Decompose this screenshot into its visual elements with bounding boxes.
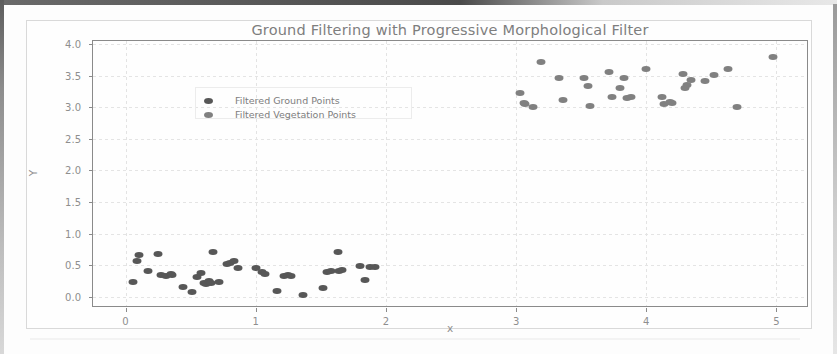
gridline-horizontal (93, 234, 807, 235)
legend-marker-icon (204, 98, 213, 104)
data-point (133, 258, 142, 264)
data-point (529, 104, 538, 110)
plot-area: 0123450.00.51.01.52.02.53.03.54.0 Filter… (92, 40, 808, 307)
data-point (233, 265, 242, 271)
data-point (536, 59, 545, 65)
y-tick (89, 297, 93, 298)
data-point (768, 54, 777, 60)
data-point (515, 90, 524, 96)
y-tick-label: 1.5 (65, 196, 81, 207)
data-point (616, 85, 625, 91)
data-point (733, 104, 742, 110)
x-tick-label: 5 (773, 316, 779, 327)
data-point (555, 75, 564, 81)
data-point (371, 264, 380, 270)
data-point (129, 279, 138, 285)
x-axis-label: x (92, 322, 808, 334)
chart-legend[interactable]: Filtered Ground PointsFiltered Vegetatio… (195, 87, 412, 119)
legend-label: Filtered Ground Points (235, 95, 340, 106)
chart-title: Ground Filtering with Progressive Morpho… (92, 22, 808, 38)
data-point (229, 258, 238, 264)
legend-label: Filtered Vegetation Points (235, 109, 356, 120)
gridline-vertical (646, 41, 647, 306)
y-tick (89, 170, 93, 171)
data-point (709, 72, 718, 78)
data-point (333, 249, 342, 255)
y-tick (89, 234, 93, 235)
gridline-vertical (386, 41, 387, 306)
data-point (583, 83, 592, 89)
data-point (178, 284, 187, 290)
gridline-horizontal (93, 139, 807, 140)
data-point (361, 277, 370, 283)
legend-item[interactable]: Filtered Ground Points (204, 94, 340, 107)
y-tick-label: 0.0 (65, 291, 81, 302)
data-point (678, 71, 687, 77)
gridline-horizontal (93, 202, 807, 203)
data-point (626, 94, 635, 100)
x-tick (646, 308, 647, 312)
x-tick-label: 3 (513, 316, 519, 327)
x-tick-label: 4 (643, 316, 649, 327)
data-point (197, 270, 206, 276)
data-point (700, 78, 709, 84)
data-point (143, 268, 152, 274)
gridline-vertical (776, 41, 777, 306)
data-point (682, 82, 691, 88)
x-tick-label: 1 (253, 316, 259, 327)
x-tick-label: 2 (383, 316, 389, 327)
data-point (686, 77, 695, 83)
data-point (215, 279, 224, 285)
x-tick (126, 308, 127, 312)
data-point (337, 267, 346, 273)
data-point (724, 66, 733, 72)
y-tick (89, 107, 93, 108)
scatter-chart: Ground Filtering with Progressive Morpho… (0, 0, 837, 354)
data-point (286, 273, 295, 279)
y-tick-label: 2.5 (65, 133, 81, 144)
data-point (272, 288, 281, 294)
gridline-horizontal (93, 265, 807, 266)
data-point (579, 75, 588, 81)
gridline-horizontal (93, 170, 807, 171)
y-tick (89, 139, 93, 140)
data-point (319, 285, 328, 291)
legend-marker-icon (204, 112, 213, 118)
gridline-vertical (126, 41, 127, 306)
data-point (260, 271, 269, 277)
x-tick (386, 308, 387, 312)
x-tick (776, 308, 777, 312)
data-point (558, 97, 567, 103)
gridline-vertical (516, 41, 517, 306)
y-tick-label: 3.5 (65, 70, 81, 81)
y-tick (89, 265, 93, 266)
data-point (355, 263, 364, 269)
gridline-horizontal (93, 44, 807, 45)
data-point (604, 69, 613, 75)
data-point (134, 252, 143, 258)
data-point (154, 251, 163, 257)
data-point (608, 94, 617, 100)
gridline-horizontal (93, 76, 807, 77)
y-tick (89, 44, 93, 45)
gridline-horizontal (93, 297, 807, 298)
y-axis-label: Y (27, 170, 39, 176)
y-tick (89, 76, 93, 77)
data-point (586, 103, 595, 109)
y-tick-label: 1.0 (65, 228, 81, 239)
data-point (642, 66, 651, 72)
y-tick-label: 2.0 (65, 165, 81, 176)
y-tick-label: 0.5 (65, 260, 81, 271)
y-tick (89, 202, 93, 203)
data-point (208, 249, 217, 255)
data-point (187, 289, 196, 295)
y-tick-label: 4.0 (65, 39, 81, 50)
data-point (620, 75, 629, 81)
data-point (168, 272, 177, 278)
x-tick-label: 0 (122, 316, 128, 327)
legend-item[interactable]: Filtered Vegetation Points (204, 108, 356, 121)
x-tick (256, 308, 257, 312)
data-point (668, 100, 677, 106)
data-point (298, 292, 307, 298)
y-tick-label: 3.0 (65, 102, 81, 113)
